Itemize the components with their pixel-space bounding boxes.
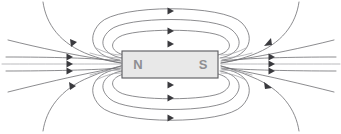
arrow-right-lower-sweep-icon [264,82,272,89]
field-line-left-lower-shallow [8,66,121,92]
field-line-right-lower-shallow [221,66,334,92]
field-fan-left-b [90,53,121,58]
bar-magnet: N S [122,51,218,78]
magnet-south-label: S [199,57,208,72]
field-line-canvas: N S [0,0,341,134]
arrow-left-axial-lower-icon [67,68,74,75]
field-lines-right-outer [221,2,334,131]
field-lines-left-outer [8,2,121,131]
arrow-right-upper-sweep-icon [264,38,272,46]
arrow-right-axial-upper-icon [269,54,276,61]
arrow-right-axial-center-icon [269,61,276,68]
arrow-top-inner-icon [168,41,175,48]
field-fan-right-a [221,48,246,55]
magnet-field-diagram: N S [0,0,341,134]
arrow-left-upper-sweep-icon [70,39,77,47]
field-fan-right-b [221,53,252,58]
arrow-left-lower-sweep-icon [69,82,76,90]
arrow-top-middle-icon [168,28,175,35]
arrow-left-axial-center-icon [67,61,74,68]
arrow-bottom-inner-icon [168,82,175,89]
arrow-right-axial-lower-icon [269,68,276,75]
magnet-north-label: N [133,57,142,72]
arrow-bottom-middle-icon [168,95,175,102]
field-fan-left-a [96,48,121,55]
